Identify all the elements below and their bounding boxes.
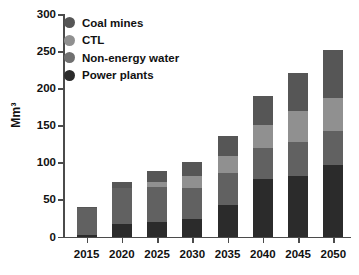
- x-tick-label: 2015: [74, 248, 100, 260]
- bar-segment: [182, 219, 202, 237]
- x-tick-label: 2040: [250, 248, 276, 260]
- bar-segment: [77, 208, 97, 235]
- bar-segment: [77, 235, 97, 236]
- y-tick-label: 200: [16, 82, 56, 94]
- bar-2035[interactable]: [218, 136, 238, 236]
- y-tick-mark: [58, 51, 63, 53]
- legend-label: CTL: [82, 34, 104, 46]
- y-tick-label: 100: [16, 156, 56, 168]
- bar-2030[interactable]: [182, 162, 202, 237]
- bar-segment: [147, 187, 167, 222]
- y-tick-mark: [58, 125, 63, 127]
- x-tick-label: 2050: [321, 248, 347, 260]
- x-tick-label: 2035: [215, 248, 241, 260]
- bar-segment: [253, 125, 273, 148]
- bar-segment: [147, 171, 167, 181]
- bar-segment: [112, 224, 132, 237]
- x-tick-mark: [122, 238, 124, 243]
- bar-segment: [288, 176, 308, 236]
- bar-segment: [323, 165, 343, 237]
- bar-2020[interactable]: [112, 182, 132, 236]
- bar-segment: [182, 188, 202, 219]
- y-tick-mark: [58, 88, 63, 90]
- bar-segment: [218, 156, 238, 173]
- legend-item-3[interactable]: Power plants: [64, 68, 179, 83]
- x-axis-line: [63, 237, 351, 239]
- bar-segment: [182, 162, 202, 176]
- x-tick-label: 2045: [285, 248, 311, 260]
- legend-item-0[interactable]: Coal mines: [64, 15, 179, 30]
- bar-segment: [253, 179, 273, 236]
- x-tick-mark: [263, 238, 265, 243]
- legend-swatch-icon: [64, 17, 75, 28]
- bar-segment: [218, 205, 238, 236]
- legend-item-1[interactable]: CTL: [64, 33, 179, 48]
- y-tick-label: 50: [16, 193, 56, 205]
- legend-swatch-icon: [64, 52, 75, 63]
- bar-segment: [323, 98, 343, 131]
- x-tick-mark: [157, 238, 159, 243]
- legend-swatch-icon: [64, 35, 75, 46]
- y-tick-label: 250: [16, 45, 56, 57]
- legend-label: Coal mines: [82, 17, 143, 29]
- y-tick-mark: [58, 199, 63, 201]
- bar-segment: [147, 222, 167, 237]
- bar-2050[interactable]: [323, 50, 343, 236]
- y-tick-label: 300: [16, 8, 56, 20]
- y-tick-label: 0: [16, 231, 56, 243]
- x-tick-label: 2030: [180, 248, 206, 260]
- legend-label: Non-energy water: [82, 52, 179, 64]
- y-tick-label: 150: [16, 119, 56, 131]
- y-tick-mark: [58, 162, 63, 164]
- bar-segment: [112, 188, 132, 224]
- bar-2015[interactable]: [77, 207, 97, 237]
- bar-segment: [288, 142, 308, 176]
- bar-2045[interactable]: [288, 73, 308, 237]
- bar-segment: [288, 111, 308, 142]
- bar-segment: [218, 136, 238, 155]
- legend-swatch-icon: [64, 70, 75, 81]
- x-tick-mark: [333, 238, 335, 243]
- bar-segment: [288, 73, 308, 112]
- bar-segment: [323, 50, 343, 97]
- bar-2025[interactable]: [147, 171, 167, 236]
- x-tick-label: 2025: [144, 248, 170, 260]
- bar-segment: [323, 131, 343, 164]
- chart-legend: Coal minesCTLNon-energy waterPower plant…: [64, 15, 179, 83]
- y-tick-mark: [58, 237, 63, 239]
- stacked-bar-chart: Mm³ 050100150200250300 20152020202520302…: [0, 0, 359, 275]
- bar-segment: [218, 173, 238, 206]
- x-tick-mark: [228, 238, 230, 243]
- bar-segment: [253, 148, 273, 180]
- x-tick-mark: [298, 238, 300, 243]
- bar-segment: [253, 96, 273, 124]
- x-tick-mark: [192, 238, 194, 243]
- y-tick-mark: [58, 14, 63, 16]
- bar-2040[interactable]: [253, 96, 273, 236]
- x-tick-mark: [87, 238, 89, 243]
- legend-label: Power plants: [82, 69, 154, 81]
- legend-item-2[interactable]: Non-energy water: [64, 50, 179, 65]
- x-tick-label: 2020: [109, 248, 135, 260]
- bar-segment: [182, 176, 202, 188]
